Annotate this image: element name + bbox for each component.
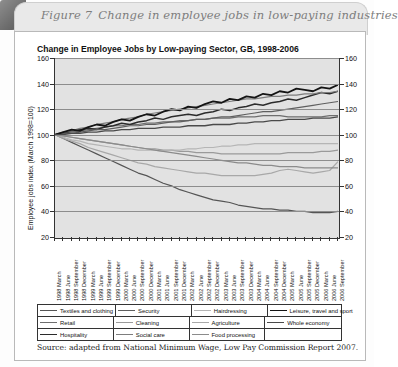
legend-color-swatch [40,310,57,311]
legend-row: Textiles and clothingSecurityHairdressin… [38,305,341,317]
x-axis-tick-mark [62,237,63,241]
legend-color-swatch [40,334,57,335]
x-axis-tick-mark [54,237,55,241]
x-axis-tick-label: 1999 December [115,261,121,301]
x-axis-tick-label: 2003 March [223,271,229,301]
legend-item[interactable]: Social care [114,329,190,340]
y-axis-tick-mark-right [340,135,344,136]
y-axis-tick-label: 80 [29,156,49,165]
chart-legend: Textiles and clothingSecurityHairdressin… [37,304,342,341]
x-axis-tick-mark [179,237,180,241]
y-axis-tick-mark [50,58,54,59]
legend-label: Agriculture [212,320,240,326]
legend-item[interactable]: Cleaning [114,317,190,328]
x-axis-tick-label: 1998 September [73,260,79,301]
legend-item[interactable]: Retail [38,317,114,328]
y-axis-tick-mark-right [340,186,344,187]
x-axis-tick-mark [229,237,230,241]
x-axis-tick-mark [287,237,288,241]
y-axis-tick-mark [50,84,54,85]
x-axis-tick-label: 1999 June [98,275,104,301]
x-axis-tick-label: 2002 June [198,275,204,301]
y-axis-tick-mark [50,237,54,238]
gridline [55,109,339,110]
legend-color-swatch [192,322,209,323]
legend-item[interactable]: Hairdressing [192,305,268,316]
x-axis-tick-label: 2005 December [314,261,320,301]
x-axis-tick-label: 2005 June [298,275,304,301]
x-axis-tick-mark [104,237,105,241]
x-axis-tick-mark [312,237,313,241]
chart-title: Change in Employee Jobs by Low-paying Se… [37,44,299,54]
x-axis-tick-label: 2006 June [331,275,337,301]
y-axis-tick-mark-right [340,58,344,59]
y-axis-tick-label: 160 [29,54,49,63]
figure-caption-text: Change in employee jobs in low-paying in… [98,8,398,22]
y-axis-tick-mark-right [340,84,344,85]
x-axis-tick-label: 2004 March [256,271,262,301]
source-note: Source: adapted from National Minimum Wa… [37,343,358,352]
x-axis-tick-mark [146,237,147,241]
x-axis-tick-mark [262,237,263,241]
legend-label: Hairdressing [214,308,247,314]
x-axis-tick-label: 2001 December [181,261,187,301]
legend-item[interactable]: Agriculture [190,317,266,328]
x-axis-tick-mark [254,237,255,241]
x-axis-tick-label: 2000 June [131,275,137,301]
x-axis-tick-mark [237,237,238,241]
y-axis-tick-mark [50,109,54,110]
y-axis-tick-mark [50,211,54,212]
x-axis-tick-label: 2000 March [123,271,129,301]
x-axis-tick-label: 1998 June [65,275,71,301]
x-axis-tick-mark [112,237,113,241]
x-axis-tick-mark [221,237,222,241]
x-axis-tick-mark [320,237,321,241]
x-axis-tick-label: 2004 June [264,275,270,301]
y-axis-tick-mark-right [340,211,344,212]
x-axis-tick-label: 2003 December [248,261,254,301]
x-axis-tick-mark [337,237,338,241]
y-axis-tick-label: 20 [29,233,49,242]
y-axis-tick-label-right: 40 [345,207,365,216]
figure-number: Figure 7 [41,8,92,22]
legend-label: Security [138,308,159,314]
y-axis-tick-mark-right [340,237,344,238]
legend-label: Food processing [212,332,256,338]
legend-item[interactable]: Hospitality [38,329,114,340]
x-axis-tick-label: 2001 March [156,271,162,301]
legend-color-swatch [116,334,133,335]
x-axis-tick-mark [187,237,188,241]
legend-color-swatch [118,310,135,311]
chart-panel: Change in Employee Jobs by Low-paying Se… [14,31,366,361]
legend-item[interactable]: Textiles and clothing [38,305,116,316]
y-axis-tick-label-right: 20 [345,233,365,242]
y-axis-tick-label-right: 60 [345,182,365,191]
legend-item[interactable]: Food processing [190,329,266,340]
legend-label: Textiles and clothing [60,308,113,314]
figure-caption: Figure 7Change in employee jobs in low-p… [41,8,398,22]
x-axis-tick-mark [270,237,271,241]
legend-item[interactable]: Security [116,305,192,316]
x-axis-tick-label: 1998 March [56,271,62,301]
y-axis-tick-label-right: 160 [345,54,365,63]
x-axis-tick-label: 2002 December [214,261,220,301]
gridline [55,135,339,136]
legend-item[interactable]: Whole economy [265,317,341,328]
x-axis-tick-mark [245,237,246,241]
y-axis-tick-mark [50,160,54,161]
x-axis-tick-label: 2004 December [281,261,287,301]
x-axis-tick-mark [79,237,80,241]
series-line [55,135,338,152]
y-axis-tick-label: 40 [29,207,49,216]
y-axis-tick-label-right: 80 [345,156,365,165]
y-axis-tick-label: 100 [29,131,49,140]
x-axis-tick-mark [137,237,138,241]
legend-row: RetailCleaningAgricultureWhole economy [38,317,341,329]
x-axis-tick-mark [329,237,330,241]
legend-color-swatch [267,322,284,323]
x-axis-tick-label: 2001 September [173,260,179,301]
legend-row: HospitalitySocial careFood processing [38,329,341,340]
legend-item[interactable]: Leisure, travel and sport [268,305,355,316]
x-axis-tick-mark [129,237,130,241]
legend-label: Social care [136,332,165,338]
